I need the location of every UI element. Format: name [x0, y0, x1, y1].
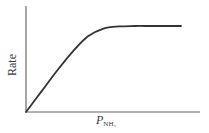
x-axis-label: PNH₃	[96, 113, 116, 128]
rate-curve	[26, 26, 181, 112]
y-axis-label: Rate	[2, 50, 22, 80]
y-axis-label-text: Rate	[5, 54, 20, 76]
x-axis-label-subscript: NH₃	[103, 120, 116, 128]
